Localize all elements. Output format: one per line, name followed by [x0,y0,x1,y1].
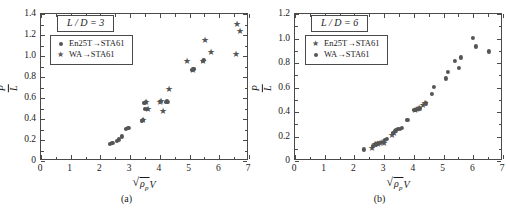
y-axis-tick-label: 1.0 [270,33,290,43]
y-axis-tick [41,140,45,141]
data-point [424,101,428,105]
y-axis-minor-tick [41,67,44,68]
y-axis-tick [243,56,247,57]
y-axis-minor-tick [295,100,298,101]
panel-b: L / D = 6 En25T→STA61 WA→STA61 P L √ρp [253,0,506,215]
x-axis-minor-tick [175,14,176,17]
x-axis-minor-tick [204,14,205,17]
y-axis-tick [243,161,247,162]
panel-b-caption: (b) [253,193,506,204]
x-axis-minor-tick [488,157,489,160]
x-axis-minor-tick [488,14,489,17]
y-axis-minor-tick [295,149,298,150]
data-point [139,115,147,124]
x-axis-tick [473,14,474,18]
x-axis-tick [354,155,355,159]
data-point [143,106,147,110]
x-label-subscript: p [145,184,149,192]
x-axis-tick [249,155,250,159]
data-point [192,67,196,71]
data-point [165,85,173,94]
data-point [391,131,395,135]
data-point [362,147,366,151]
data-point [156,97,164,106]
x-axis-tick-label: 2 [351,163,356,173]
y-axis-minor-tick [499,75,502,76]
x-axis-tick [414,155,415,159]
data-point [120,134,124,138]
data-point [385,137,389,141]
y-axis-minor-tick [41,109,44,110]
data-point [199,56,207,65]
circle-marker-icon [56,42,65,46]
data-point [108,142,112,146]
y-axis-minor-tick [245,109,248,110]
data-point [394,128,398,132]
y-axis-minor-tick [41,130,44,131]
y-axis-minor-tick [295,75,298,76]
data-point [376,141,380,145]
y-axis-tick [41,77,45,78]
x-axis-minor-tick [369,157,370,160]
data-point [419,101,427,110]
y-axis-tick [41,119,45,120]
data-point [191,67,195,71]
data-point [368,144,376,153]
data-point [236,26,244,35]
data-point [396,126,400,130]
data-point [446,69,450,73]
x-axis-minor-tick [115,157,116,160]
star-marker-icon [56,51,65,59]
data-point [159,106,167,115]
x-axis-tick [249,14,250,18]
x-axis-tick-label: 4 [410,163,415,173]
y-axis-tick-label: 1.4 [16,8,36,18]
x-label-subscript: p [399,184,403,192]
y-axis-minor-tick [295,26,298,27]
x-axis-tick [444,14,445,18]
y-axis-tick [497,161,501,162]
y-axis-minor-tick [41,151,44,152]
data-point [144,105,152,114]
y-axis-tick [295,161,299,162]
x-axis-tick [190,14,191,18]
y-axis-tick-label: 0.8 [16,71,36,81]
data-point [144,100,148,104]
y-axis-tick [497,63,501,64]
data-point [202,58,206,62]
data-point [400,126,404,130]
y-axis-minor-tick [499,149,502,150]
data-point [207,47,215,56]
x-axis-minor-tick [399,14,400,17]
x-axis-tick [503,14,504,18]
x-axis-minor-tick [115,14,116,17]
x-axis-minor-tick [56,157,57,160]
data-point [378,138,386,147]
radical-icon: √ρp [386,176,403,192]
legend-label: En25T→STA61 [69,38,125,49]
y-axis-tick [295,112,299,113]
data-point [411,105,419,114]
data-point [405,118,409,122]
legend-item: WA→STA61 [311,49,380,60]
x-axis-tick [41,14,42,18]
y-axis-tick-label: 0 [270,155,290,165]
y-axis-tick [497,88,501,89]
x-axis-minor-tick [429,157,430,160]
x-axis-tick [219,14,220,18]
y-axis-tick [243,140,247,141]
y-axis-minor-tick [245,67,248,68]
x-axis-tick [503,155,504,159]
x-axis-tick [295,155,296,159]
y-axis-minor-tick [41,46,44,47]
y-axis-minor-tick [499,26,502,27]
data-point [474,44,478,48]
legend-label: WA→STA61 [69,49,115,60]
x-axis-tick-label: 6 [216,163,221,173]
y-axis-minor-tick [41,25,44,26]
data-point [142,101,146,105]
y-axis-tick [497,137,501,138]
y-axis-tick [295,39,299,40]
x-axis-minor-tick [86,157,87,160]
data-point [453,59,457,63]
